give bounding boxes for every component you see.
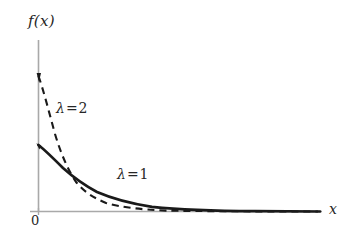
- lambda-symbol-1: λ: [117, 166, 126, 182]
- x-axis-label: x: [329, 202, 337, 216]
- annotation-lambda-2: λ=2: [56, 101, 88, 115]
- lambda-value-1: 1: [140, 166, 149, 182]
- lambda-symbol-2: λ: [56, 100, 65, 116]
- plot-canvas: [0, 0, 359, 246]
- exponential-distribution-figure: f(x) x 0 λ=2 λ=1: [0, 0, 359, 246]
- curve-lambda-1: [39, 145, 321, 212]
- y-axis-label: f(x): [28, 14, 55, 29]
- annotation-lambda-1: λ=1: [117, 167, 149, 181]
- equals-sign-1: =: [126, 166, 140, 182]
- origin-label: 0: [31, 214, 39, 227]
- lambda-value-2: 2: [79, 100, 88, 116]
- curve-lambda-2: [39, 76, 319, 212]
- equals-sign-2: =: [65, 100, 79, 116]
